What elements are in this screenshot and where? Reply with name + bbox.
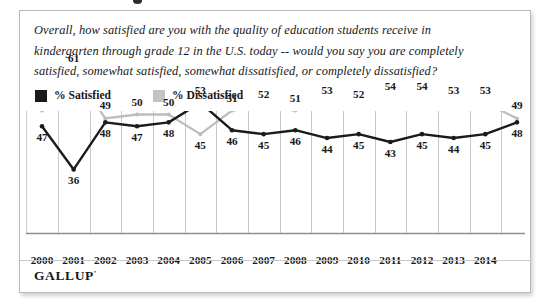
chart-value-label-satisfied: 53 — [195, 84, 206, 96]
chart-point-satisfied — [103, 120, 108, 125]
chart-value-label-satisfied: 48 — [100, 127, 111, 139]
gallup-logo-text: GALLUP — [34, 268, 94, 283]
chart-point-satisfied — [325, 136, 330, 141]
chart-value-label-dissatisfied: 49 — [100, 99, 111, 111]
chart-value-label-satisfied: 36 — [68, 174, 79, 186]
chart-value-label-dissatisfied: 54 — [416, 80, 427, 92]
chart-value-label-dissatisfied: 50 — [163, 96, 174, 108]
chart-point-satisfied — [40, 124, 45, 129]
chart-point-satisfied — [451, 136, 456, 141]
chart-value-label-satisfied: 47 — [36, 131, 47, 143]
chart-value-label-dissatisfied: 50 — [131, 96, 142, 108]
chart-point-dissatisfied — [103, 116, 107, 120]
chart-value-label-dissatisfied: 51 — [290, 92, 301, 104]
chart-value-label-satisfied: 46 — [226, 135, 237, 147]
question-line-1: Overall, how satisfied are you with the … — [34, 20, 504, 41]
chart-value-label-satisfied: 47 — [131, 131, 142, 143]
chart-point-satisfied — [71, 167, 76, 172]
chart-value-label-dissatisfied: 45 — [195, 139, 206, 151]
chart-point-dissatisfied — [293, 111, 297, 113]
chart-value-label-satisfied: 44 — [321, 143, 332, 155]
chart-point-satisfied — [293, 128, 298, 133]
chart-line-satisfied — [42, 111, 517, 169]
chart-point-satisfied — [356, 132, 361, 137]
gallup-logo: GALLUP’ — [34, 268, 96, 284]
chart-value-label-dissatisfied: 54 — [385, 80, 396, 92]
chart-value-label-dissatisfied: 49 — [511, 99, 522, 111]
chart-value-label-dissatisfied: 52 — [258, 88, 269, 100]
chart-value-label-satisfied: 43 — [385, 147, 396, 159]
chart-x-axis: 2000200120022003200420052006200720082009… — [20, 254, 532, 278]
chart-point-dissatisfied — [198, 132, 202, 136]
chart-value-label-satisfied: 44 — [448, 143, 459, 155]
chart-point-satisfied — [135, 124, 140, 129]
chart-point-satisfied — [515, 120, 520, 125]
screenshot-root: Overall, how satisfied are you with the … — [0, 0, 555, 307]
chart-value-label-satisfied: 45 — [258, 139, 269, 151]
chart-svg — [20, 111, 532, 259]
chart-value-label-satisfied: 46 — [290, 135, 301, 147]
chart-plot-area: 5161495050455152515352545453534947364847… — [20, 111, 532, 256]
chart-point-dissatisfied — [515, 116, 519, 120]
chart-value-label-satisfied: 45 — [480, 139, 491, 151]
question-line-2: kindergarten through grade 12 in the U.S… — [34, 41, 504, 62]
chart-point-dissatisfied — [135, 113, 139, 117]
chart-value-label-dissatisfied: 61 — [68, 52, 79, 64]
question-line-3: satisfied, somewhat satisfied, somewhat … — [34, 61, 504, 82]
chart-value-label-satisfied: 45 — [416, 139, 427, 151]
gallup-chart-card: Overall, how satisfied are you with the … — [19, 10, 531, 293]
chart-value-label-dissatisfied: 52 — [353, 88, 364, 100]
chart-value-label-satisfied: 45 — [353, 139, 364, 151]
chart-value-label-dissatisfied: 53 — [480, 84, 491, 96]
chart-point-satisfied — [261, 132, 266, 137]
footer-divider — [20, 260, 531, 261]
chart-value-label-dissatisfied: 53 — [321, 84, 332, 96]
scan-artifact — [133, 0, 142, 4]
chart-point-satisfied — [166, 120, 171, 125]
chart-point-dissatisfied — [167, 113, 171, 117]
chart-point-satisfied — [388, 140, 393, 145]
chart-point-dissatisfied — [40, 111, 44, 113]
chart-point-satisfied — [483, 132, 488, 137]
chart-value-label-dissatisfied: 51 — [226, 92, 237, 104]
chart-point-satisfied — [420, 132, 425, 137]
chart-value-label-dissatisfied: 53 — [448, 84, 459, 96]
chart-value-label-satisfied: 48 — [511, 127, 522, 139]
chart-point-satisfied — [230, 128, 235, 133]
chart-value-label-satisfied: 48 — [163, 127, 174, 139]
trademark-icon: ’ — [94, 269, 96, 277]
page-title: Overall, how satisfied are you with the … — [34, 20, 504, 82]
chart-value-label-dissatisfied: 51 — [36, 92, 47, 104]
